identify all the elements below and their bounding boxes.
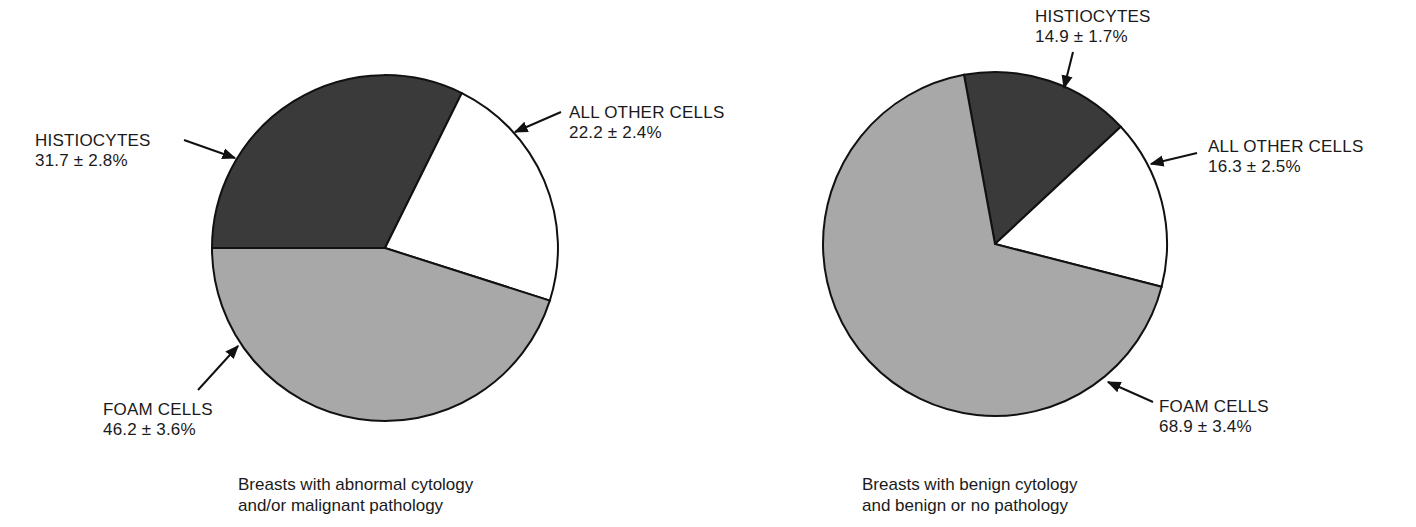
left-other-name: ALL OTHER CELLS — [569, 103, 724, 123]
right-label-all-other-cells: ALL OTHER CELLS 16.3 ± 2.5% — [1208, 137, 1363, 177]
left-caption-line1: Breasts with abnormal cytology — [238, 474, 473, 495]
right-foam-value: 68.9 ± 3.4% — [1159, 417, 1269, 437]
left-histiocytes-value: 31.7 ± 2.8% — [35, 151, 151, 171]
left-arrow-foam-cells — [198, 346, 238, 390]
right-arrow-all-other-cells — [1151, 153, 1197, 164]
right-label-histiocytes: HISTIOCYTES 14.9 ± 1.7% — [1035, 7, 1151, 47]
right-other-name: ALL OTHER CELLS — [1208, 137, 1363, 157]
right-pie-chart — [823, 72, 1167, 416]
left-label-foam-cells: FOAM CELLS 46.2 ± 3.6% — [103, 400, 213, 440]
right-arrow-histiocytes — [1064, 52, 1073, 88]
left-foam-value: 46.2 ± 3.6% — [103, 420, 213, 440]
left-pie-chart — [212, 75, 558, 421]
right-foam-name: FOAM CELLS — [1159, 397, 1269, 417]
right-caption-line1: Breasts with benign cytology — [862, 474, 1077, 495]
right-arrow-foam-cells — [1108, 382, 1153, 402]
right-label-foam-cells: FOAM CELLS 68.9 ± 3.4% — [1159, 397, 1269, 437]
left-arrow-histiocytes — [184, 140, 235, 158]
left-label-all-other-cells: ALL OTHER CELLS 22.2 ± 2.4% — [569, 103, 724, 143]
right-histiocytes-name: HISTIOCYTES — [1035, 7, 1151, 27]
left-other-value: 22.2 ± 2.4% — [569, 123, 724, 143]
left-caption-line2: and/or malignant pathology — [238, 495, 473, 516]
right-caption: Breasts with benign cytology and benign … — [862, 474, 1077, 516]
pie-charts-canvas — [0, 0, 1416, 527]
right-other-value: 16.3 ± 2.5% — [1208, 157, 1363, 177]
right-histiocytes-value: 14.9 ± 1.7% — [1035, 27, 1151, 47]
left-histiocytes-name: HISTIOCYTES — [35, 131, 151, 151]
right-caption-line2: and benign or no pathology — [862, 495, 1077, 516]
left-arrow-all-other-cells — [515, 112, 561, 132]
left-caption: Breasts with abnormal cytology and/or ma… — [238, 474, 473, 516]
left-foam-name: FOAM CELLS — [103, 400, 213, 420]
left-label-histiocytes: HISTIOCYTES 31.7 ± 2.8% — [35, 131, 151, 171]
